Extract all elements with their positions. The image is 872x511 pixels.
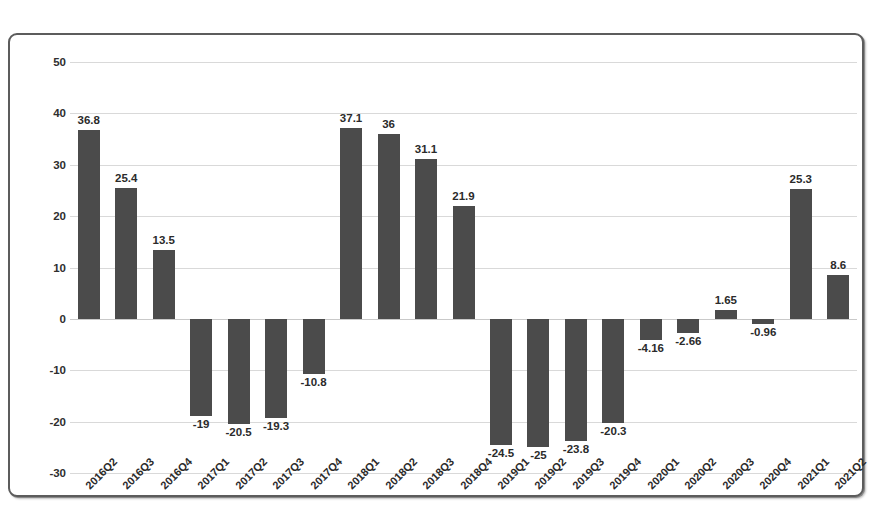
bar[interactable] xyxy=(190,319,212,417)
y-axis-tick-label: -30 xyxy=(20,467,66,479)
bar[interactable] xyxy=(453,206,475,319)
bar-value-label: 36.8 xyxy=(78,114,100,126)
bar[interactable] xyxy=(602,319,624,423)
gridline-50 xyxy=(70,62,857,63)
gridline--10 xyxy=(70,370,857,371)
bar[interactable] xyxy=(228,319,250,424)
bar-value-label: -24.5 xyxy=(488,447,514,459)
bar[interactable] xyxy=(303,319,325,374)
y-axis-tick-label: 10 xyxy=(20,262,66,274)
bar[interactable] xyxy=(640,319,662,340)
bar-value-label: 8.6 xyxy=(830,259,846,271)
y-axis-tick-label: 0 xyxy=(20,313,66,325)
bar-value-label: -10.8 xyxy=(300,376,326,388)
bar[interactable] xyxy=(78,130,100,319)
bar[interactable] xyxy=(752,319,774,324)
bar[interactable] xyxy=(265,319,287,418)
y-axis-tick-label: 40 xyxy=(20,107,66,119)
y-axis-tick-label: -10 xyxy=(20,364,66,376)
chart-frame: 50403020100-10-20-30 36.825.413.5-19-20.… xyxy=(8,33,864,497)
bar[interactable] xyxy=(415,159,437,319)
bar-value-label: -2.66 xyxy=(675,335,701,347)
bar-value-label: -4.16 xyxy=(638,342,664,354)
chart-page: 50403020100-10-20-30 36.825.413.5-19-20.… xyxy=(0,0,872,511)
bar-value-label: -20.5 xyxy=(226,426,252,438)
bar[interactable] xyxy=(565,319,587,441)
plot-area: 36.825.413.5-19-20.5-19.3-10.837.13631.1… xyxy=(70,62,857,473)
bar-value-label: -19.3 xyxy=(263,420,289,432)
bar[interactable] xyxy=(490,319,512,445)
bar-value-label: 37.1 xyxy=(340,112,362,124)
bar[interactable] xyxy=(378,134,400,319)
gridline-40 xyxy=(70,113,857,114)
gridline--20 xyxy=(70,422,857,423)
bar-value-label: -20.3 xyxy=(600,425,626,437)
bar-value-label: 1.65 xyxy=(715,294,737,306)
gridline-0 xyxy=(70,319,857,320)
y-axis-tick-label: 20 xyxy=(20,210,66,222)
bar[interactable] xyxy=(677,319,699,333)
y-axis-tick-label: 30 xyxy=(20,159,66,171)
bar[interactable] xyxy=(715,310,737,318)
bar-value-label: 13.5 xyxy=(152,234,174,246)
bar-value-label: -19 xyxy=(193,418,210,430)
y-axis-tick-label: -20 xyxy=(20,416,66,428)
gridline-30 xyxy=(70,165,857,166)
bar[interactable] xyxy=(340,128,362,319)
bar-value-label: -25 xyxy=(530,449,547,461)
bar-value-label: 25.4 xyxy=(115,172,137,184)
bar-value-label: -23.8 xyxy=(563,443,589,455)
bar[interactable] xyxy=(115,188,137,318)
bar[interactable] xyxy=(153,250,175,319)
y-axis-tick-label: 50 xyxy=(20,56,66,68)
bar[interactable] xyxy=(527,319,549,447)
bar-value-label: 36 xyxy=(382,118,395,130)
y-axis: 50403020100-10-20-30 xyxy=(10,62,66,473)
bar-value-label: 31.1 xyxy=(415,143,437,155)
bar-value-label: 21.9 xyxy=(452,190,474,202)
bar-value-label: 25.3 xyxy=(790,173,812,185)
bar[interactable] xyxy=(827,275,849,319)
x-axis: 2016Q22016Q32016Q42017Q12017Q22017Q32017… xyxy=(70,477,857,511)
bar[interactable] xyxy=(790,189,812,319)
bar-value-label: -0.96 xyxy=(750,326,776,338)
